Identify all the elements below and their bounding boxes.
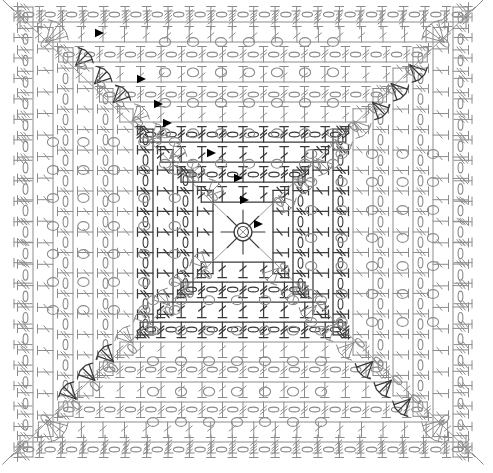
chain-stitch-zero	[397, 150, 408, 159]
chain-stitch-zero	[231, 296, 242, 305]
chain-stitch-oval	[388, 447, 398, 452]
direction-arrow-marker	[234, 174, 243, 182]
chain-stitch-zero	[215, 99, 226, 108]
chain-stitch-oval	[378, 196, 383, 206]
chain-stitch-oval	[103, 340, 108, 350]
chain-stitch-oval	[378, 340, 383, 350]
chain-stitch-oval	[195, 447, 205, 452]
chain-stitch-oval	[228, 407, 238, 412]
chain-stitch-oval	[310, 132, 320, 137]
chain-stitch-oval	[63, 135, 68, 145]
chain-stitch-oval	[248, 367, 258, 372]
chain-stitch-oval	[366, 447, 376, 452]
chain-stitch-oval	[146, 367, 156, 372]
chain-stitch-zero	[203, 296, 214, 305]
chain-stitch-oval	[166, 52, 176, 57]
chain-stitch-oval	[259, 447, 269, 452]
chain-stitch-oval	[354, 337, 365, 348]
chain-stitch-zero	[315, 296, 326, 305]
chain-stitch-oval	[143, 237, 148, 247]
chain-stitch-oval	[330, 52, 340, 57]
chain-stitch-zero	[397, 318, 408, 327]
crochet-chart-canvas	[0, 0, 493, 473]
chain-stitch-zero	[397, 178, 408, 187]
chain-stitch-oval	[146, 407, 156, 412]
chain-stitch-oval	[289, 407, 299, 412]
chain-stitch-oval	[103, 114, 108, 124]
chain-stitch-oval	[103, 258, 108, 268]
chain-stitch-oval	[378, 237, 383, 247]
chain-stitch-oval	[88, 12, 98, 17]
chain-stitch-zero	[187, 99, 198, 108]
chain-stitch-oval	[187, 52, 197, 57]
chain-stitch-zero	[231, 387, 242, 396]
chain-stitch-oval	[404, 65, 415, 76]
chain-stitch-oval	[84, 407, 94, 412]
chain-stitch-zero	[327, 99, 338, 108]
chain-stitch-oval	[269, 132, 279, 137]
chain-stitch-oval	[216, 447, 226, 452]
chain-stitch-oval	[63, 196, 68, 206]
chain-stitch-oval	[125, 367, 135, 372]
chain-stitch-zero	[367, 262, 378, 271]
chain-stitch-oval	[378, 155, 383, 165]
chain-stitch-oval	[207, 287, 217, 292]
chain-stitch-oval	[23, 334, 28, 344]
chain-stitch-oval	[88, 447, 98, 452]
chain-stitch-oval	[103, 278, 108, 288]
chain-stitch-oval	[126, 343, 137, 354]
chain-stitch-zero	[271, 159, 282, 168]
chain-stitch-zero	[306, 262, 317, 271]
chain-stitch-oval	[63, 73, 68, 83]
chain-stitch-oval	[207, 52, 217, 57]
chain-stitch-zero	[259, 387, 270, 396]
chain-stitch-oval	[248, 327, 258, 332]
chain-stitch-oval	[166, 92, 176, 97]
chain-stitch-oval	[388, 12, 398, 17]
chain-stitch-oval	[269, 287, 279, 292]
chain-stitch-oval	[378, 299, 383, 309]
chain-stitch-oval	[63, 339, 68, 349]
chain-stitch-zero	[397, 262, 408, 271]
chain-stitch-oval	[166, 327, 176, 332]
chain-stitch-oval	[418, 258, 423, 268]
chain-stitch-oval	[143, 175, 148, 185]
chain-stitch-oval	[378, 134, 383, 144]
chain-stitch-oval	[386, 84, 397, 95]
chain-stitch-oval	[371, 52, 381, 57]
chain-stitch-oval	[302, 447, 312, 452]
chain-stitch-oval	[228, 287, 238, 292]
chain-stitch-oval	[330, 407, 340, 412]
chain-stitch-oval	[152, 447, 162, 452]
direction-arrow-marker	[254, 220, 263, 228]
chain-stitch-oval	[350, 52, 360, 57]
chain-stitch-oval	[281, 12, 291, 17]
chain-stitch-oval	[187, 407, 197, 412]
chain-stitch-oval	[324, 447, 334, 452]
chain-stitch-oval	[378, 114, 383, 124]
chain-stitch-oval	[452, 447, 462, 452]
chain-stitch-zero	[78, 278, 89, 287]
chain-stitch-oval	[289, 92, 299, 97]
direction-arrow-marker	[207, 149, 216, 157]
chain-stitch-oval	[183, 237, 188, 247]
chain-stitch-zero	[215, 68, 226, 77]
chain-stitch-oval	[269, 407, 279, 412]
chain-stitch-oval	[174, 12, 184, 17]
chain-stitch-oval	[103, 319, 108, 329]
chain-stitch-zero	[159, 159, 170, 168]
chain-stitch-oval	[378, 278, 383, 288]
chain-stitch-oval	[292, 178, 303, 189]
chain-stitch-zero	[306, 234, 317, 243]
cluster-leg-bar	[428, 22, 434, 26]
chain-stitch-oval	[298, 258, 303, 268]
chain-stitch-zero	[315, 357, 326, 366]
corner-flare	[3, 453, 14, 464]
chain-stitch-zero	[203, 387, 214, 396]
chain-stitch-oval	[351, 92, 361, 97]
chain-stitch-oval	[418, 94, 423, 104]
chain-stitch-oval	[183, 196, 188, 206]
chain-stitch-oval	[418, 114, 423, 124]
corner-flare	[3, 0, 14, 11]
chain-stitch-oval	[248, 407, 258, 412]
